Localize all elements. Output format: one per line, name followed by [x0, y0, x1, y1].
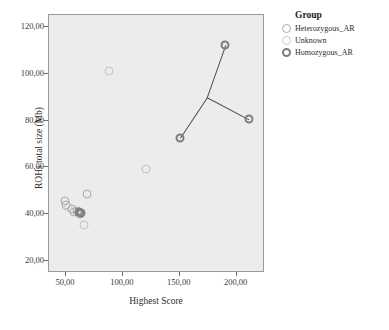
legend-item[interactable]: Homozygous_AR — [282, 48, 386, 57]
legend: Group Heterozygous_ARUnknownHomozygous_A… — [282, 10, 386, 60]
y-axis-tick-mark — [44, 260, 48, 261]
y-axis-tick-mark — [44, 166, 48, 167]
data-point — [141, 164, 150, 173]
legend-items: Heterozygous_ARUnknownHomozygous_AR — [282, 24, 386, 57]
legend-item-label: Unknown — [295, 36, 327, 45]
x-axis-tick-label: 50,00 — [45, 277, 85, 287]
y-axis-tick-mark — [44, 26, 48, 27]
legend-marker-circle-icon — [282, 36, 291, 45]
x-axis-tick-label: 150,00 — [159, 277, 199, 287]
y-axis-tick-mark — [44, 120, 48, 121]
connector-line — [207, 97, 250, 120]
x-axis-tick-label: 100,00 — [102, 277, 142, 287]
data-point — [82, 190, 91, 199]
y-axis-label: ROHs total size (Mb) — [34, 68, 44, 228]
data-point — [76, 209, 85, 218]
x-axis-label: Highest Score — [48, 296, 264, 306]
data-point — [175, 134, 184, 143]
x-axis-tick-mark — [179, 272, 180, 276]
y-axis-tick-label: 120,00 — [0, 21, 44, 31]
legend-item-label: Heterozygous_AR — [295, 24, 355, 33]
connector-line — [207, 45, 226, 97]
plot-area — [48, 14, 264, 272]
x-axis-tick-mark — [65, 272, 66, 276]
data-point — [64, 203, 73, 212]
plot-inner — [49, 15, 263, 271]
y-axis-tick-mark — [44, 213, 48, 214]
x-axis-tick-label: 200,00 — [216, 277, 256, 287]
connector-line — [180, 97, 208, 139]
legend-marker-circle-icon — [282, 48, 291, 57]
x-axis-tick-mark — [122, 272, 123, 276]
legend-item[interactable]: Unknown — [282, 36, 386, 45]
legend-item-label: Homozygous_AR — [295, 48, 353, 57]
chart-root: 20,0040,0060,0080,00100,00120,0050,00100… — [0, 0, 389, 330]
x-axis-tick-mark — [236, 272, 237, 276]
data-point — [80, 220, 89, 229]
data-point — [105, 67, 114, 76]
legend-title: Group — [295, 10, 386, 20]
y-axis-tick-label: 20,00 — [0, 255, 44, 265]
y-axis-tick-mark — [44, 73, 48, 74]
legend-item[interactable]: Heterozygous_AR — [282, 24, 386, 33]
data-point — [221, 41, 230, 50]
data-point — [245, 115, 254, 124]
legend-marker-circle-icon — [282, 24, 291, 33]
